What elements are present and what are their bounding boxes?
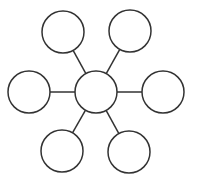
node-top-right xyxy=(109,10,151,52)
node-top-left xyxy=(42,11,84,53)
center-node xyxy=(75,71,117,113)
node-top-left-circle xyxy=(42,11,84,53)
nodes xyxy=(8,10,184,173)
edge-center-bottom-left xyxy=(72,110,85,133)
spider-diagram xyxy=(0,0,197,182)
edge-center-top-left xyxy=(73,50,86,73)
node-left xyxy=(8,71,50,113)
edge-center-top-right xyxy=(106,49,120,73)
node-right-circle xyxy=(142,71,184,113)
node-bottom-left xyxy=(41,130,83,172)
node-bottom-right-circle xyxy=(108,131,150,173)
node-top-right-circle xyxy=(109,10,151,52)
node-left-circle xyxy=(8,71,50,113)
node-right xyxy=(142,71,184,113)
edge-center-bottom-right xyxy=(106,110,119,133)
node-bottom-left-circle xyxy=(41,130,83,172)
node-bottom-right xyxy=(108,131,150,173)
center-node-circle xyxy=(75,71,117,113)
